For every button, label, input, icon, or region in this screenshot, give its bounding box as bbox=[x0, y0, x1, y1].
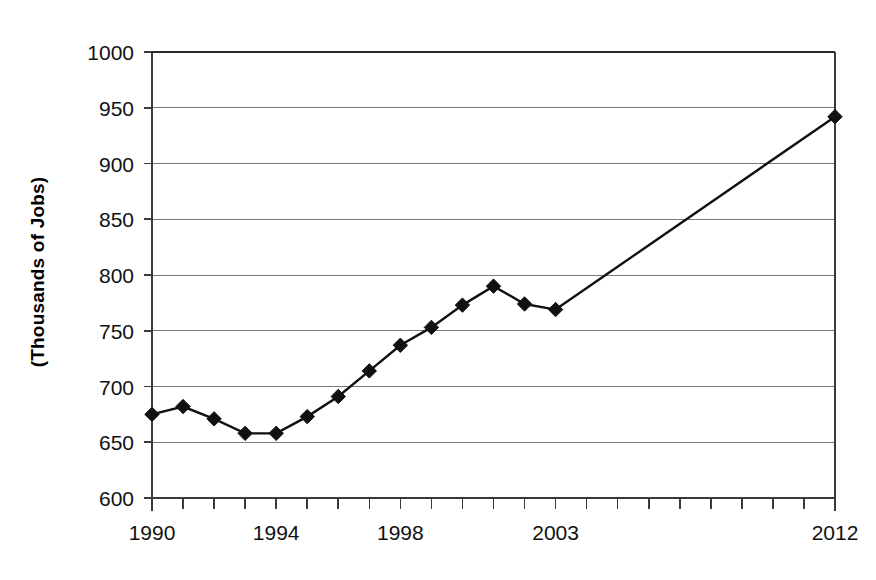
y-tick-label: 1000 bbox=[87, 41, 134, 64]
y-axis-title: (Thousands of Jobs) bbox=[27, 177, 48, 368]
x-tick-label: 2003 bbox=[532, 521, 579, 544]
data-point-marker bbox=[517, 297, 531, 311]
x-tick-labels: 19901994199820032012 bbox=[129, 521, 859, 544]
data-point-marker bbox=[145, 407, 159, 421]
line-chart: 6006507007508008509009501000 19901994199… bbox=[0, 0, 876, 580]
y-tick-labels: 6006507007508008509009501000 bbox=[87, 41, 134, 510]
gridlines bbox=[152, 52, 835, 498]
x-tick-label: 1990 bbox=[129, 521, 176, 544]
x-tick-label: 1998 bbox=[377, 521, 424, 544]
data-point-marker bbox=[486, 279, 500, 293]
y-tick-label: 750 bbox=[99, 320, 134, 343]
data-point-marker bbox=[238, 426, 252, 440]
y-tick-label: 700 bbox=[99, 376, 134, 399]
data-point-marker bbox=[300, 409, 314, 423]
y-tick-label: 800 bbox=[99, 264, 134, 287]
data-point-marker bbox=[828, 109, 842, 123]
data-point-marker bbox=[176, 399, 190, 413]
data-point-marker bbox=[548, 302, 562, 316]
y-tick-label: 600 bbox=[99, 487, 134, 510]
x-tick-label: 2012 bbox=[812, 521, 859, 544]
y-tick-label: 850 bbox=[99, 208, 134, 231]
chart-container: 6006507007508008509009501000 19901994199… bbox=[0, 0, 876, 580]
data-point-marker bbox=[207, 412, 221, 426]
data-point-marker bbox=[269, 426, 283, 440]
x-tick-label: 1994 bbox=[253, 521, 300, 544]
y-tick-label: 900 bbox=[99, 153, 134, 176]
y-tick-label: 950 bbox=[99, 97, 134, 120]
y-tick-label: 650 bbox=[99, 431, 134, 454]
x-axis bbox=[152, 498, 835, 511]
